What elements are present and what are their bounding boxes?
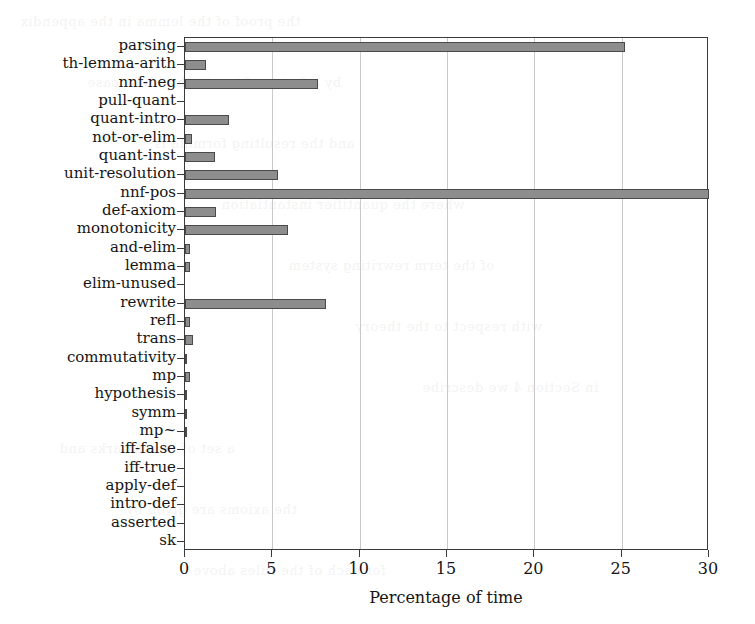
bar-row	[185, 390, 707, 400]
x-axis-tick	[621, 550, 622, 557]
bar-row	[185, 225, 707, 235]
y-axis-label-quant-inst: quant-inst	[99, 148, 176, 163]
y-axis-tick	[177, 449, 184, 450]
bar	[185, 225, 288, 235]
bar-row	[185, 244, 707, 254]
plot-area	[184, 37, 708, 550]
x-axis-tick-label: 20	[523, 561, 543, 577]
y-axis-tick	[177, 523, 184, 524]
bar-row	[185, 299, 707, 309]
bar-row	[185, 134, 707, 144]
bar-row	[185, 152, 707, 162]
y-axis-tick	[177, 486, 184, 487]
y-axis-label-sk: sk	[159, 533, 176, 548]
bar	[185, 390, 187, 400]
y-axis-tick	[177, 46, 184, 47]
bar-row	[185, 537, 707, 547]
y-axis-label-intro-def: intro-def	[110, 496, 176, 511]
bar-chart-figure: parsingth-lemma-arithnnf-negpull-quantqu…	[0, 0, 755, 624]
bar-row	[185, 519, 707, 529]
bar	[185, 134, 192, 144]
y-axis-label-and-elim: and-elim	[110, 240, 176, 255]
bar-row	[185, 262, 707, 272]
y-axis-label-rewrite: rewrite	[120, 295, 176, 310]
bar-row	[185, 60, 707, 70]
y-axis-label-not-or-elim: not-or-elim	[92, 130, 176, 145]
x-axis-tick	[446, 550, 447, 557]
bar-row	[185, 354, 707, 364]
y-axis-label-asserted: asserted	[111, 515, 176, 530]
y-axis-tick	[177, 541, 184, 542]
y-axis-tick	[177, 119, 184, 120]
bar	[185, 317, 190, 327]
bar-row	[185, 280, 707, 290]
bar-row	[185, 427, 707, 437]
x-axis-tick-label: 0	[179, 561, 189, 577]
bar	[185, 299, 326, 309]
y-axis-tick	[177, 211, 184, 212]
bar	[185, 207, 216, 217]
y-axis-label-commutativity: commutativity	[67, 350, 176, 365]
bar-row	[185, 170, 707, 180]
y-axis-tick	[177, 431, 184, 432]
y-axis-label-th-lemma-arith: th-lemma-arith	[63, 56, 177, 71]
bar-row	[185, 79, 707, 89]
y-axis-label-quant-intro: quant-intro	[90, 111, 176, 126]
y-axis-tick	[177, 138, 184, 139]
bar	[185, 262, 190, 272]
x-axis-tick-label: 15	[436, 561, 456, 577]
y-axis-tick	[177, 174, 184, 175]
y-axis-tick	[177, 64, 184, 65]
y-axis-label-def-axiom: def-axiom	[102, 203, 176, 218]
y-axis-label-nnf-neg: nnf-neg	[118, 75, 176, 90]
bar-row	[185, 317, 707, 327]
bar-row	[185, 409, 707, 419]
bar	[185, 189, 709, 199]
y-axis-tick	[177, 229, 184, 230]
bar-row	[185, 445, 707, 455]
y-axis-tick	[177, 468, 184, 469]
bar	[185, 335, 193, 345]
y-axis-label-lemma: lemma	[125, 258, 176, 273]
y-axis-label-symm: symm	[131, 405, 176, 420]
y-axis-label-mp: mp	[152, 368, 176, 383]
bar-row	[185, 42, 707, 52]
y-axis-label-monotonicity: monotonicity	[77, 221, 176, 236]
bar-row	[185, 500, 707, 510]
bar	[185, 115, 229, 125]
bar	[185, 372, 190, 382]
bar	[185, 354, 187, 364]
bar	[185, 42, 625, 52]
y-axis-tick	[177, 83, 184, 84]
y-axis-label-mp-: mp~	[140, 423, 176, 438]
bar-row	[185, 482, 707, 492]
y-axis-tick	[177, 303, 184, 304]
y-axis-tick	[177, 339, 184, 340]
x-axis-title: Percentage of time	[184, 588, 708, 607]
y-axis-label-iff-true: iff-true	[124, 460, 176, 475]
y-axis-tick	[177, 394, 184, 395]
y-axis-label-pull-quant: pull-quant	[98, 93, 176, 108]
bar	[185, 409, 187, 419]
bar	[185, 427, 187, 437]
y-axis-label-unit-resolution: unit-resolution	[64, 166, 176, 181]
bar-row	[185, 372, 707, 382]
x-axis-tick	[708, 550, 709, 557]
y-axis-tick	[177, 376, 184, 377]
y-axis-tick	[177, 413, 184, 414]
y-axis-tick	[177, 504, 184, 505]
y-axis-label-trans: trans	[137, 331, 177, 346]
x-axis-tick	[184, 550, 185, 557]
y-axis-tick	[177, 248, 184, 249]
y-axis-label-nnf-pos: nnf-pos	[120, 185, 176, 200]
y-axis-tick	[177, 156, 184, 157]
bar	[185, 60, 206, 70]
y-axis-label-elim-unused: elim-unused	[83, 276, 176, 291]
x-axis-tick-label: 5	[266, 561, 276, 577]
x-axis-tick-label: 10	[348, 561, 368, 577]
bar	[185, 152, 215, 162]
y-axis-label-parsing: parsing	[119, 38, 176, 53]
bar-row	[185, 97, 707, 107]
y-axis-tick	[177, 284, 184, 285]
y-axis-label-iff-false: iff-false	[120, 441, 176, 456]
